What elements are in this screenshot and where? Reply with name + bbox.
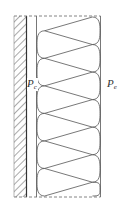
interior-pressure-label: Pc xyxy=(27,78,38,91)
label-subscript: c xyxy=(34,83,37,91)
label-main: P xyxy=(27,77,34,89)
batt-insulation-zigzag xyxy=(37,17,100,196)
label-subscript: e xyxy=(114,83,117,91)
exterior-pressure-label: Pe xyxy=(107,78,117,91)
wall-section-diagram xyxy=(0,0,120,219)
hatched-wall xyxy=(14,16,26,197)
label-main: P xyxy=(107,77,114,89)
